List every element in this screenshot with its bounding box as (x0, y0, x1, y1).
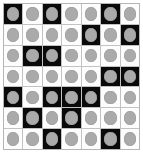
disc-icon (26, 70, 39, 84)
grid-cell (121, 87, 139, 107)
disc-icon (124, 132, 137, 146)
disc-icon (46, 111, 59, 125)
grid-cell (101, 46, 119, 66)
grid-cell (43, 46, 61, 66)
disc-icon (124, 28, 137, 42)
grid-cell (23, 25, 41, 45)
checker-grid (3, 3, 140, 150)
grid-cell (82, 46, 100, 66)
grid-cell (23, 46, 41, 66)
grid-cell (101, 67, 119, 87)
disc-icon (85, 132, 98, 146)
disc-icon (26, 49, 39, 63)
grid-cell (62, 108, 80, 128)
disc-icon (124, 70, 137, 84)
grid-cell (101, 4, 119, 24)
disc-icon (65, 49, 78, 63)
disc-icon (65, 7, 78, 20)
disc-icon (26, 132, 39, 146)
grid-cell (4, 46, 22, 66)
grid-cell (62, 46, 80, 66)
disc-icon (85, 28, 98, 42)
disc-icon (65, 132, 78, 146)
disc-icon (7, 132, 20, 146)
grid-cell (121, 46, 139, 66)
grid-cell (43, 129, 61, 149)
grid-cell (82, 25, 100, 45)
disc-icon (7, 49, 20, 63)
grid-cell (101, 108, 119, 128)
disc-icon (104, 7, 117, 20)
grid-cell (121, 4, 139, 24)
grid-cell (23, 108, 41, 128)
grid-cell (23, 129, 41, 149)
grid-cell (23, 4, 41, 24)
disc-icon (85, 91, 98, 105)
disc-icon (104, 91, 117, 105)
grid-cell (121, 67, 139, 87)
disc-icon (85, 7, 98, 20)
grid-cell (62, 129, 80, 149)
grid-cell (62, 67, 80, 87)
grid-cell (4, 129, 22, 149)
disc-icon (104, 70, 117, 84)
disc-icon (85, 70, 98, 84)
grid-cell (43, 108, 61, 128)
grid-cell (62, 25, 80, 45)
disc-icon (7, 7, 20, 20)
disc-icon (46, 70, 59, 84)
disc-icon (46, 132, 59, 146)
grid-cell (82, 129, 100, 149)
grid-cell (43, 67, 61, 87)
disc-icon (124, 91, 137, 105)
grid-cell (23, 67, 41, 87)
disc-icon (46, 28, 59, 42)
disc-icon (65, 91, 78, 105)
disc-icon (65, 70, 78, 84)
disc-icon (7, 91, 20, 105)
grid-cell (4, 108, 22, 128)
grid-cell (43, 87, 61, 107)
grid-cell (4, 67, 22, 87)
disc-icon (104, 111, 117, 125)
disc-icon (26, 111, 39, 125)
disc-icon (124, 49, 137, 63)
disc-icon (65, 111, 78, 125)
disc-icon (85, 49, 98, 63)
grid-cell (82, 67, 100, 87)
grid-cell (82, 4, 100, 24)
grid-cell (101, 129, 119, 149)
grid-cell (4, 87, 22, 107)
disc-icon (46, 7, 59, 20)
grid-cell (101, 87, 119, 107)
grid-cell (62, 4, 80, 24)
disc-icon (124, 111, 137, 125)
disc-icon (124, 7, 137, 20)
grid-cell (121, 108, 139, 128)
disc-icon (104, 28, 117, 42)
grid-figure (0, 0, 143, 154)
disc-icon (26, 7, 39, 20)
grid-cell (82, 87, 100, 107)
grid-cell (101, 25, 119, 45)
grid-cell (23, 87, 41, 107)
disc-icon (26, 91, 39, 105)
grid-cell (121, 129, 139, 149)
grid-cell (82, 108, 100, 128)
disc-icon (7, 70, 20, 84)
disc-icon (46, 49, 59, 63)
grid-cell (121, 25, 139, 45)
disc-icon (104, 132, 117, 146)
disc-icon (26, 28, 39, 42)
disc-icon (7, 28, 20, 42)
grid-cell (43, 25, 61, 45)
disc-icon (46, 91, 59, 105)
disc-icon (65, 28, 78, 42)
grid-cell (43, 4, 61, 24)
disc-icon (7, 111, 20, 125)
grid-cell (4, 4, 22, 24)
disc-icon (104, 49, 117, 63)
grid-cell (4, 25, 22, 45)
disc-icon (85, 111, 98, 125)
grid-cell (62, 87, 80, 107)
